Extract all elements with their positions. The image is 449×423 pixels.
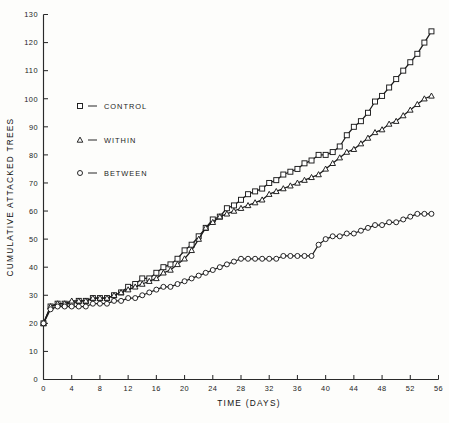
series-marker-control <box>415 51 420 56</box>
series-marker-between <box>147 290 152 295</box>
series-marker-between <box>380 223 385 228</box>
series-marker-control <box>351 124 356 129</box>
series-marker-control <box>387 85 392 90</box>
series-marker-between <box>140 293 145 298</box>
y-tick-label: 120 <box>24 38 38 47</box>
y-axis-title: CUMULATIVE ATTACKED TREES <box>5 118 15 277</box>
series-marker-between <box>203 270 208 275</box>
series-marker-between <box>401 217 406 222</box>
series-marker-control <box>239 197 244 202</box>
series-marker-between <box>62 304 67 309</box>
x-tick-label: 16 <box>152 384 161 393</box>
x-tick-label: 20 <box>180 384 189 393</box>
series-marker-between <box>365 225 370 230</box>
x-tick-label: 44 <box>349 384 358 393</box>
series-marker-between <box>55 304 60 309</box>
legend-marker-control <box>78 104 83 109</box>
series-marker-control <box>295 166 300 171</box>
x-tick-label: 52 <box>406 384 415 393</box>
series-line-between <box>44 214 432 324</box>
cumulative-attacked-trees-chart: 0102030405060708090100110120130048121620… <box>0 0 449 423</box>
x-tick-label: 40 <box>321 384 330 393</box>
x-tick-label: 4 <box>69 384 74 393</box>
series-marker-between <box>309 253 314 258</box>
series-marker-between <box>161 284 166 289</box>
y-tick-label: 130 <box>24 10 38 19</box>
series-marker-control <box>302 161 307 166</box>
y-tick-label: 70 <box>29 179 38 188</box>
x-tick-label: 36 <box>293 384 302 393</box>
series-marker-control <box>429 29 434 34</box>
y-tick-label: 30 <box>29 291 38 300</box>
y-tick-label: 10 <box>29 347 38 356</box>
x-tick-label: 0 <box>41 384 46 393</box>
series-marker-between <box>83 304 88 309</box>
series-marker-control <box>316 152 321 157</box>
series-marker-between <box>408 214 413 219</box>
series-marker-control <box>281 172 286 177</box>
legend-label-within: WITHIN <box>104 136 136 145</box>
series-marker-between <box>373 223 378 228</box>
series-marker-control <box>309 158 314 163</box>
series-marker-control <box>260 186 265 191</box>
chart-canvas: 0102030405060708090100110120130048121620… <box>0 0 449 423</box>
x-tick-label: 56 <box>434 384 443 393</box>
x-tick-label: 28 <box>236 384 245 393</box>
legend-label-control: CONTROL <box>104 102 147 111</box>
series-marker-between <box>133 296 138 301</box>
series-marker-control <box>337 144 342 149</box>
series-marker-between <box>351 231 356 236</box>
series-marker-between <box>90 301 95 306</box>
series-marker-between <box>337 234 342 239</box>
series-marker-between <box>344 231 349 236</box>
legend-marker-within <box>77 137 83 142</box>
x-tick-label: 48 <box>378 384 387 393</box>
series-marker-between <box>189 276 194 281</box>
series-marker-between <box>210 268 215 273</box>
series-marker-control <box>401 68 406 73</box>
series-marker-control <box>246 192 251 197</box>
series-marker-control <box>274 178 279 183</box>
series-marker-between <box>97 301 102 306</box>
series-marker-between <box>154 287 159 292</box>
series-marker-between <box>104 301 109 306</box>
series-marker-between <box>415 211 420 216</box>
series-marker-between <box>76 304 81 309</box>
y-tick-label: 100 <box>24 95 38 104</box>
series-line-within <box>44 96 432 323</box>
y-tick-label: 60 <box>29 207 38 216</box>
series-marker-control <box>422 40 427 45</box>
series-marker-between <box>41 321 46 326</box>
series-marker-between <box>69 304 74 309</box>
y-tick-label: 80 <box>29 151 38 160</box>
series-marker-between <box>281 253 286 258</box>
series-marker-between <box>224 262 229 267</box>
series-marker-control <box>288 169 293 174</box>
y-tick-label: 0 <box>33 375 38 384</box>
legend-marker-between <box>78 171 83 176</box>
series-marker-between <box>246 256 251 261</box>
series-marker-between <box>126 296 131 301</box>
x-tick-label: 24 <box>208 384 217 393</box>
series-marker-control <box>380 93 385 98</box>
series-marker-between <box>422 211 427 216</box>
series-marker-control <box>323 152 328 157</box>
series-line-control <box>44 31 432 323</box>
series-marker-between <box>316 242 321 247</box>
x-tick-label: 32 <box>265 384 274 393</box>
series-marker-control <box>267 180 272 185</box>
series-marker-between <box>429 211 434 216</box>
x-tick-label: 8 <box>98 384 103 393</box>
legend-label-between: BETWEEN <box>104 169 148 178</box>
series-marker-control <box>330 150 335 155</box>
series-marker-within <box>429 93 435 98</box>
y-tick-label: 110 <box>25 66 38 75</box>
series-marker-between <box>274 256 279 261</box>
series-marker-between <box>217 265 222 270</box>
series-marker-between <box>253 256 258 261</box>
y-tick-label: 90 <box>29 123 38 132</box>
x-axis-title: TIME (DAYS) <box>217 398 280 408</box>
series-marker-control <box>394 77 399 82</box>
series-marker-control <box>365 110 370 115</box>
series-marker-between <box>302 253 307 258</box>
